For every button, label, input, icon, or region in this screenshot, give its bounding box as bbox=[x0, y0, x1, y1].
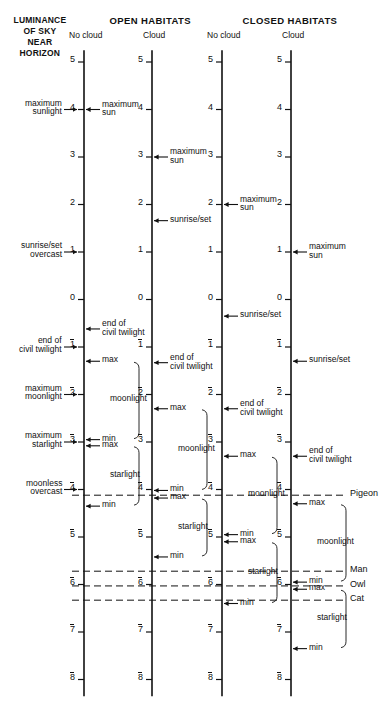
tick-label-closed-cloud-10: 5 bbox=[277, 530, 282, 539]
left-annotation-1: sunrise/setovercast bbox=[21, 241, 62, 259]
ann-arrow-open-cloud-2 bbox=[154, 360, 159, 365]
ann-arrow-closed-no-cloud-4 bbox=[224, 532, 229, 537]
tick-label-open-no-cloud-5: 0 bbox=[70, 293, 75, 302]
ann-arrow-open-no-cloud-1 bbox=[86, 327, 91, 332]
tick-label-open-no-cloud-0: 5 bbox=[70, 55, 75, 64]
column-subheader-closed-cloud: Cloud bbox=[282, 31, 304, 40]
ann-label-closed-no-cloud-6: min bbox=[240, 598, 254, 607]
tick-label-open-cloud-8: 3 bbox=[138, 435, 143, 444]
ann-label-closed-cloud-6: min bbox=[309, 643, 323, 652]
luminance-figure: LUMINANCEOF SKYNEARHORIZONOPEN HABITATSC… bbox=[0, 0, 391, 712]
ann-label-closed-cloud-1: sunrise/set bbox=[309, 355, 350, 364]
ann-label-open-cloud-2: end ofcivil twilight bbox=[170, 353, 213, 371]
ann-label-closed-no-cloud-3: max bbox=[240, 450, 256, 459]
ann-arrow-closed-no-cloud-5 bbox=[224, 539, 229, 544]
tick-label-closed-no-cloud-1: 4 bbox=[208, 103, 213, 112]
tick-label-closed-no-cloud-13: 8 bbox=[208, 673, 213, 682]
tick-label-open-cloud-0: 5 bbox=[138, 55, 143, 64]
tick-label-closed-no-cloud-2: 3 bbox=[208, 150, 213, 159]
ann-arrow-open-no-cloud-3 bbox=[86, 437, 91, 442]
bracket-label-open-no-cloud-0: moonlight bbox=[110, 394, 147, 403]
tick-label-closed-cloud-13: 8 bbox=[277, 673, 282, 682]
ann-arrow-open-cloud-4 bbox=[154, 488, 159, 493]
tick-label-open-cloud-2: 3 bbox=[138, 150, 143, 159]
tick-label-closed-no-cloud-11: 6 bbox=[208, 578, 213, 587]
tick-label-open-cloud-13: 8 bbox=[138, 673, 143, 682]
ann-label-closed-cloud-3: max bbox=[309, 498, 325, 507]
column-subheader-open-no-cloud: No cloud bbox=[69, 31, 103, 40]
ann-arrow-closed-cloud-0 bbox=[293, 250, 298, 255]
left-annotation-2: end ofcivil twilight bbox=[19, 336, 62, 354]
ann-label-closed-no-cloud-1: sunrise/set bbox=[240, 310, 281, 319]
ann-arrow-open-cloud-5 bbox=[154, 496, 159, 501]
tick-label-open-no-cloud-7: 2 bbox=[70, 388, 75, 397]
tick-label-open-no-cloud-10: 5 bbox=[70, 530, 75, 539]
ann-label-closed-cloud-5: max bbox=[309, 583, 325, 592]
tick-label-open-no-cloud-4: 1 bbox=[70, 245, 75, 254]
ann-arrow-closed-cloud-3 bbox=[293, 501, 298, 506]
ann-label-open-cloud-0: maximumsun bbox=[170, 147, 207, 165]
figure-title-line: LUMINANCE bbox=[14, 16, 67, 25]
tick-label-closed-cloud-2: 3 bbox=[277, 150, 282, 159]
column-subheader-closed-no-cloud: No cloud bbox=[207, 31, 241, 40]
tick-label-open-no-cloud-12: 7 bbox=[70, 625, 75, 634]
ann-label-closed-cloud-2: end ofcivil twilight bbox=[309, 446, 352, 464]
ann-arrow-closed-cloud-1 bbox=[293, 359, 298, 364]
ann-arrow-open-cloud-3 bbox=[154, 406, 159, 411]
ann-label-open-cloud-3: max bbox=[170, 403, 186, 412]
tick-label-open-cloud-12: 7 bbox=[138, 625, 143, 634]
tick-label-closed-no-cloud-10: 5 bbox=[208, 530, 213, 539]
ann-arrow-closed-cloud-6 bbox=[293, 646, 298, 651]
tick-label-closed-no-cloud-6: 1 bbox=[208, 340, 213, 349]
ann-label-open-no-cloud-4: max bbox=[102, 440, 118, 449]
species-label-cat: Cat bbox=[350, 594, 364, 603]
ann-label-open-no-cloud-5: min bbox=[102, 500, 116, 509]
bracket-label-closed-no-cloud-1: starlight bbox=[248, 567, 278, 576]
tick-label-open-no-cloud-3: 2 bbox=[70, 198, 75, 207]
group-header-0: OPEN HABITATS bbox=[110, 16, 191, 26]
tick-label-closed-no-cloud-7: 2 bbox=[208, 388, 213, 397]
tick-label-closed-cloud-1: 4 bbox=[277, 103, 282, 112]
tick-label-open-cloud-10: 5 bbox=[138, 530, 143, 539]
figure-title-line: OF SKY bbox=[24, 27, 57, 36]
tick-label-closed-cloud-0: 5 bbox=[277, 55, 282, 64]
tick-label-open-no-cloud-6: 1 bbox=[70, 340, 75, 349]
ann-arrow-open-no-cloud-5 bbox=[86, 504, 91, 509]
tick-label-closed-no-cloud-9: 4 bbox=[208, 483, 213, 492]
ann-arrow-closed-no-cloud-0 bbox=[224, 202, 229, 207]
ann-label-open-no-cloud-2: max bbox=[102, 355, 118, 364]
tick-label-open-no-cloud-13: 8 bbox=[70, 673, 75, 682]
ann-arrow-open-cloud-6 bbox=[154, 555, 159, 560]
figure-title-line: NEAR bbox=[28, 38, 53, 47]
tick-label-closed-no-cloud-0: 5 bbox=[208, 55, 213, 64]
tick-label-closed-cloud-5: 0 bbox=[277, 293, 282, 302]
ann-arrow-closed-cloud-5 bbox=[293, 587, 298, 592]
ann-label-closed-no-cloud-5: max bbox=[240, 536, 256, 545]
ann-label-open-cloud-1: sunrise/set bbox=[170, 215, 211, 224]
bracket-label-closed-cloud-1: starlight bbox=[317, 613, 347, 622]
bracket-label-open-cloud-0: moonlight bbox=[178, 444, 215, 453]
bracket-label-open-cloud-1: starlight bbox=[178, 522, 208, 531]
ann-arrow-closed-cloud-4 bbox=[293, 580, 298, 585]
ann-label-open-cloud-5: max bbox=[170, 492, 186, 501]
ann-label-closed-no-cloud-2: end ofcivil twilight bbox=[240, 399, 283, 417]
tick-label-closed-no-cloud-4: 1 bbox=[208, 245, 213, 254]
tick-label-closed-cloud-11: 6 bbox=[277, 578, 282, 587]
figure-title-line: HORIZON bbox=[20, 49, 61, 58]
ann-arrow-closed-no-cloud-3 bbox=[224, 454, 229, 459]
tick-label-open-no-cloud-11: 6 bbox=[70, 578, 75, 587]
tick-label-closed-cloud-12: 7 bbox=[277, 625, 282, 634]
tick-label-closed-cloud-7: 2 bbox=[277, 388, 282, 397]
ann-arrow-open-no-cloud-4 bbox=[86, 443, 91, 448]
tick-label-open-cloud-5: 0 bbox=[138, 293, 143, 302]
tick-label-closed-cloud-4: 1 bbox=[277, 245, 282, 254]
tick-label-closed-no-cloud-12: 7 bbox=[208, 625, 213, 634]
tick-label-open-no-cloud-2: 3 bbox=[70, 150, 75, 159]
ann-label-closed-no-cloud-0: maximumsun bbox=[240, 195, 277, 213]
left-annotation-5: moonlessovercast bbox=[26, 479, 62, 497]
ann-label-closed-cloud-0: maximumsun bbox=[309, 242, 346, 260]
tick-label-open-cloud-6: 1 bbox=[138, 340, 143, 349]
tick-label-closed-no-cloud-5: 0 bbox=[208, 293, 213, 302]
bracket-label-open-no-cloud-1: starlight bbox=[110, 470, 140, 479]
group-header-1: CLOSED HABITATS bbox=[243, 16, 338, 26]
